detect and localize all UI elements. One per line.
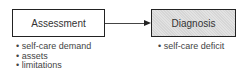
assessment-items: self-care demand assets limitations bbox=[16, 42, 91, 71]
diagnosis-label: Diagnosis bbox=[172, 18, 216, 29]
assessment-box: Assessment bbox=[12, 9, 105, 37]
connector-line bbox=[105, 23, 146, 24]
diagnosis-item: self-care deficit bbox=[158, 42, 224, 52]
arrow-head-icon bbox=[144, 20, 151, 26]
assessment-label: Assessment bbox=[31, 18, 85, 29]
diagnosis-items: self-care deficit bbox=[158, 42, 224, 52]
diagnosis-box: Diagnosis bbox=[151, 9, 236, 37]
assessment-item: limitations bbox=[16, 61, 91, 71]
